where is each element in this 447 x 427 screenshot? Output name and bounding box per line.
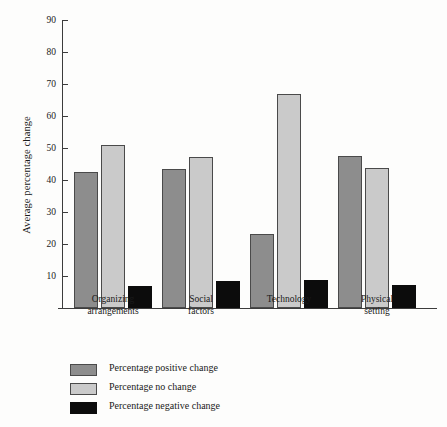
y-tick-80: 80 xyxy=(62,52,68,53)
y-tick-label: 70 xyxy=(34,79,56,89)
bar xyxy=(365,168,389,308)
legend-item: Percentage negative change xyxy=(70,400,370,419)
y-tick-mark xyxy=(63,52,68,53)
bar xyxy=(277,94,301,308)
y-tick-60: 60 xyxy=(62,116,68,117)
y-tick-mark xyxy=(63,20,68,21)
bar xyxy=(338,156,362,308)
bar xyxy=(189,157,213,308)
y-tick-mark xyxy=(63,84,68,85)
y-tick-90: 90 xyxy=(62,20,68,21)
y-tick-70: 70 xyxy=(62,84,68,85)
bar xyxy=(74,172,98,308)
plot-area: 102030405060708090 xyxy=(62,20,437,308)
y-tick-10: 10 xyxy=(62,276,68,277)
bar xyxy=(101,145,125,308)
y-tick-20: 20 xyxy=(62,244,68,245)
bar xyxy=(162,169,186,308)
legend-item: Percentage positive change xyxy=(70,362,370,381)
bar-chart-figure: Average percentage change 10203040506070… xyxy=(0,0,447,427)
y-tick-label: 50 xyxy=(34,143,56,153)
x-axis-label-2: Social factors xyxy=(156,294,246,317)
y-tick-mark xyxy=(63,116,68,117)
y-tick-label: 80 xyxy=(34,47,56,57)
chart-legend: Percentage positive changePercentage no … xyxy=(70,362,370,419)
y-tick-30: 30 xyxy=(62,212,68,213)
x-axis-label-3: Technology xyxy=(244,294,334,306)
x-axis-label-1: Organizing arrangements xyxy=(68,294,158,317)
y-axis-line xyxy=(62,20,63,308)
legend-swatch-dark-gray xyxy=(70,364,97,376)
y-tick-mark xyxy=(63,244,68,245)
y-tick-mark xyxy=(63,180,68,181)
y-axis-title: Average percentage change xyxy=(21,116,32,234)
y-tick-mark xyxy=(63,212,68,213)
legend-swatch-light-gray xyxy=(70,383,97,395)
y-tick-label: 40 xyxy=(34,175,56,185)
y-tick-label: 60 xyxy=(34,111,56,121)
y-tick-label: 90 xyxy=(34,15,56,25)
y-tick-label: 20 xyxy=(34,239,56,249)
legend-label: Percentage positive change xyxy=(109,362,218,373)
legend-item: Percentage no change xyxy=(70,381,370,400)
y-tick-label: 10 xyxy=(34,271,56,281)
y-tick-40: 40 xyxy=(62,180,68,181)
legend-label: Percentage negative change xyxy=(109,400,220,411)
legend-swatch-black xyxy=(70,402,97,414)
x-axis-label-4: Physical setting xyxy=(332,294,422,317)
y-tick-mark xyxy=(63,148,68,149)
y-tick-mark xyxy=(63,276,68,277)
legend-label: Percentage no change xyxy=(109,381,196,392)
y-tick-label: 30 xyxy=(34,207,56,217)
y-tick-50: 50 xyxy=(62,148,68,149)
